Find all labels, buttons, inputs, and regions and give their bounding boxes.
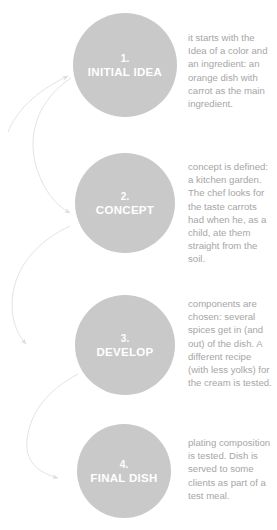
stage-number-3: 3. bbox=[121, 332, 130, 345]
arrow-stage-3-to-stage-4 bbox=[27, 374, 78, 478]
stage-circle-4[interactable]: 4. FINAL DISH bbox=[77, 424, 171, 518]
arrow-stage-1-to-stage-2 bbox=[33, 78, 71, 213]
stage-description-4: plating composition is tested. Dish is s… bbox=[188, 436, 274, 502]
arrow-stage-2-to-stage-3 bbox=[12, 226, 70, 344]
stage-description-2: concept is defined: a kitchen garden. Th… bbox=[188, 160, 274, 266]
stage-circle-3[interactable]: 3. DEVELOP bbox=[75, 295, 175, 395]
stage-label-1: INITIAL IDEA bbox=[88, 65, 162, 79]
stage-circle-1[interactable]: 1. INITIAL IDEA bbox=[73, 13, 177, 117]
stage-number-2: 2. bbox=[121, 190, 130, 203]
stage-circle-2[interactable]: 2. CONCEPT bbox=[75, 153, 175, 253]
process-flow-diagram: 1. INITIAL IDEA it starts with the Idea … bbox=[0, 0, 277, 530]
stage-label-4: FINAL DISH bbox=[90, 471, 157, 485]
stage-description-1: it starts with the Idea of a color and a… bbox=[188, 31, 274, 110]
stage-number-1: 1. bbox=[121, 52, 130, 65]
stage-description-3: components are chosen: several spices ge… bbox=[188, 297, 274, 389]
arrow-into-stage-1 bbox=[8, 76, 68, 132]
stage-number-4: 4. bbox=[120, 458, 129, 471]
stage-label-3: DEVELOP bbox=[96, 345, 153, 359]
stage-label-2: CONCEPT bbox=[96, 203, 154, 217]
